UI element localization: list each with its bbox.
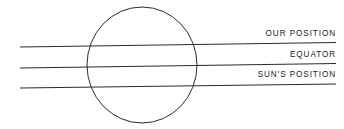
- our-position-line: [20, 43, 336, 48]
- equator-label: EQUATOR: [290, 51, 336, 59]
- earth-circle: [87, 7, 197, 123]
- suns-position-line: [20, 84, 336, 88]
- diagram-canvas: [0, 0, 344, 129]
- equator-line: [20, 64, 336, 69]
- suns-position-label: SUN'S POSITION: [258, 71, 336, 79]
- our-position-label: OUR POSITION: [266, 30, 336, 38]
- earth-position-diagram: OUR POSITION EQUATOR SUN'S POSITION: [0, 0, 344, 129]
